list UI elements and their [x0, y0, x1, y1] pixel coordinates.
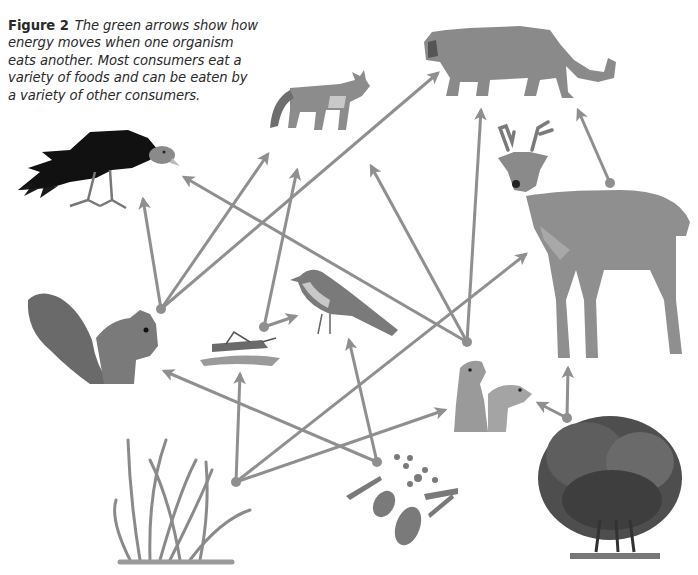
origin-dot-grasshopper	[259, 322, 269, 332]
origin-dot-prairie-dogs	[462, 337, 472, 347]
arrow-grass-to-grasshopper	[236, 374, 240, 482]
food-web-diagram	[0, 0, 698, 575]
deer-illustration	[498, 122, 690, 358]
origin-dot-deer	[605, 178, 615, 188]
grass-illustration	[115, 440, 250, 562]
shrub-illustration	[538, 416, 682, 556]
arrow-seeds-to-squirrel	[164, 371, 377, 462]
fox-illustration	[270, 70, 370, 130]
origin-dot-grass	[231, 477, 241, 487]
origin-dot-shrub	[562, 413, 572, 423]
squirrel-illustration	[28, 293, 158, 384]
origin-dot-seeds	[372, 457, 382, 467]
vulture-illustration	[18, 130, 180, 208]
arrow-grasshopper-to-bird	[264, 316, 296, 327]
arrow-grasshopper-to-fox	[264, 170, 297, 327]
arrow-shrub-to-deer	[567, 368, 568, 418]
seeds-illustration	[346, 454, 458, 549]
prairie-dogs-illustration	[454, 361, 532, 432]
grasshopper-illustration	[200, 332, 280, 366]
arrow-squirrel-to-vulture	[143, 199, 161, 309]
arrow-deer-to-cougar	[578, 110, 610, 183]
arrow-prairie-dogs-to-vulture	[184, 177, 467, 342]
arrow-seeds-to-bird	[349, 340, 377, 462]
cougar-illustration	[424, 26, 616, 98]
arrow-prairie-dogs-to-cougar	[467, 110, 481, 342]
origin-dot-squirrel	[156, 304, 166, 314]
bird-illustration	[290, 270, 398, 336]
